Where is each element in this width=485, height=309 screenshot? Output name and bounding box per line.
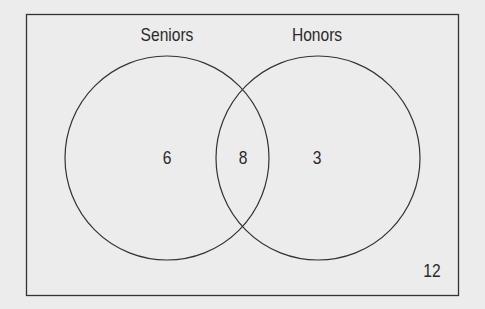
seniors-only-count: 6 — [163, 148, 172, 167]
outside-count: 12 — [423, 261, 440, 280]
honors-label: Honors — [292, 25, 342, 44]
seniors-label: Seniors — [141, 25, 194, 44]
honors-only-count: 3 — [313, 148, 322, 167]
intersection-count: 8 — [239, 148, 248, 167]
